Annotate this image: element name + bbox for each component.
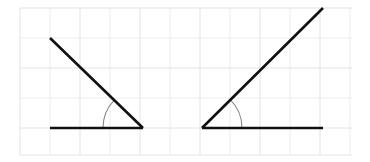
angle-figure-canvas <box>0 0 370 162</box>
angle-diagram-svg <box>0 0 370 162</box>
figure-background <box>0 0 370 162</box>
